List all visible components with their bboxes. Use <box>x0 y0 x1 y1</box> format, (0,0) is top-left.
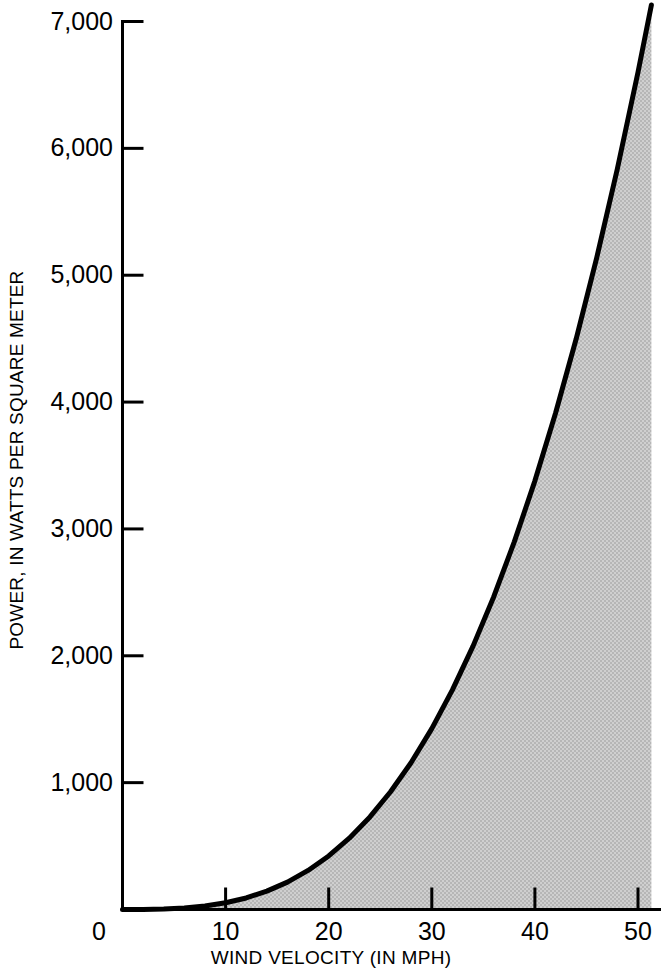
y-tick-label: 7,000 <box>0 9 113 34</box>
y-tick-label: 3,000 <box>0 516 113 541</box>
wind-power-chart: 01,0002,0003,0004,0005,0006,0007,000 102… <box>0 0 662 979</box>
x-axis-title: WIND VELOCITY (IN MPH) <box>0 947 662 969</box>
y-tick-label: 6,000 <box>0 135 113 160</box>
y-tick-label: 5,000 <box>0 262 113 287</box>
x-tick-label: 50 <box>598 919 662 944</box>
x-tick-label: 40 <box>495 919 575 944</box>
x-tick-label: 30 <box>392 919 472 944</box>
x-tick-label: 10 <box>186 919 266 944</box>
y-tick-label: 1,000 <box>0 770 113 795</box>
x-tick-label: 20 <box>289 919 369 944</box>
power-area-fill <box>123 5 652 909</box>
y-axis-ticks <box>123 22 144 783</box>
y-tick-label: 4,000 <box>0 389 113 414</box>
y-tick-label: 0 <box>82 919 116 944</box>
y-tick-label: 2,000 <box>0 643 113 668</box>
